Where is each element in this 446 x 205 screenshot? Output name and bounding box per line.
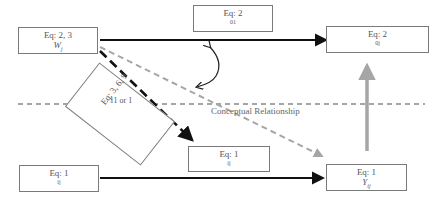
box-0j: Eq: 2 0j (326, 26, 429, 53)
box-ij-left-var: ij (20, 178, 98, 187)
box-wj: Eq: 2, 3 Wj (18, 27, 98, 54)
box-01: Eq: 2 01 (193, 5, 273, 32)
box-ij-left-eq: Eq: 1 (20, 166, 98, 178)
curved-double-arrow (197, 47, 219, 87)
box-0j-eq: Eq: 2 (327, 27, 428, 39)
box-ij-left: Eq: 1 ij (19, 165, 99, 192)
conceptual-relationship-label: Conceptual Relationship (211, 106, 300, 116)
box-01-var: 01 (194, 18, 272, 27)
box-wj-eq: Eq: 2, 3 (19, 28, 97, 40)
box-yij-eq: Eq: 1 (327, 165, 406, 177)
box-ij-middle: Eq: 1 ij (188, 146, 270, 172)
var-w: W (53, 40, 61, 50)
var-y-sub: ij (367, 183, 370, 189)
box-yij: Eq: 1 Yij (326, 164, 407, 191)
box-ij-middle-var: ij (189, 159, 269, 168)
var-w-sub: j (61, 46, 63, 52)
box-01-eq: Eq: 2 (194, 6, 272, 18)
box-0j-var: 0j (327, 39, 428, 48)
box-wj-var: Wj (19, 40, 97, 54)
box-ij-middle-eq: Eq: 1 (189, 147, 269, 159)
box-rotated-var: 11 or 1 (96, 96, 146, 106)
box-yij-var: Yij (327, 177, 406, 191)
